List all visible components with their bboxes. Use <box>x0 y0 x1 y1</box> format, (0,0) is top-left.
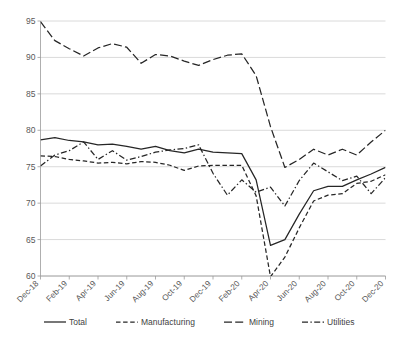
legend-label-utilities: Utilities <box>327 317 354 327</box>
y-axis-tick-label: 85 <box>26 89 36 99</box>
x-axis-tick-label: Dec-18 <box>15 279 40 304</box>
y-axis-tick-label: 80 <box>26 125 36 135</box>
x-axis-tick-label: Dec-19 <box>188 279 213 304</box>
x-axis-tick-label: Oct-20 <box>333 279 357 303</box>
x-axis-tick-label: Apr-20 <box>247 279 271 303</box>
x-axis-tick-label: Aug-19 <box>130 279 155 304</box>
line-chart: 6065707580859095Dec-18Feb-19Apr-19Jun-19… <box>0 0 405 339</box>
y-axis-tick-label: 75 <box>26 162 36 172</box>
y-axis-tick-label: 90 <box>26 52 36 62</box>
legend-label-mining: Mining <box>249 317 274 327</box>
gridlines: 6065707580859095 <box>26 16 385 281</box>
x-axis-ticks: Dec-18Feb-19Apr-19Jun-19Aug-19Oct-19Dec-… <box>15 276 385 304</box>
legend-label-manufacturing: Manufacturing <box>141 317 195 327</box>
x-axis-tick-label: Jun-19 <box>103 279 127 303</box>
x-axis-tick-label: Dec-20 <box>360 279 385 304</box>
y-axis-tick-label: 70 <box>26 198 36 208</box>
legend: TotalManufacturingMiningUtilities <box>44 317 354 327</box>
legend-label-total: Total <box>69 317 87 327</box>
chart-canvas: 6065707580859095Dec-18Feb-19Apr-19Jun-19… <box>0 0 405 339</box>
x-axis-tick-label: Feb-19 <box>44 279 69 304</box>
series-group <box>41 22 386 277</box>
series-line-total <box>41 138 386 246</box>
x-axis-tick-label: Feb-20 <box>217 279 242 304</box>
y-axis-tick-label: 65 <box>26 235 36 245</box>
series-line-mining <box>41 22 386 168</box>
x-axis-tick-label: Oct-19 <box>160 279 184 303</box>
x-axis-tick-label: Aug-20 <box>303 279 328 304</box>
x-axis-tick-label: Jun-20 <box>275 279 299 303</box>
x-axis-tick-label: Apr-19 <box>74 279 98 303</box>
y-axis-tick-label: 95 <box>26 16 36 26</box>
